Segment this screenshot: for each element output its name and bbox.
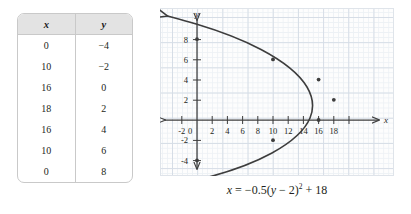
y-tick-label: 4 <box>184 75 189 85</box>
cell-y: −2 <box>75 56 132 77</box>
cell-y: 8 <box>75 161 132 182</box>
equation-coefficient: −0.5( <box>245 183 271 197</box>
cell-x: 16 <box>18 77 75 98</box>
parabola-curve <box>167 16 313 176</box>
cell-y: −4 <box>75 35 132 57</box>
cell-x: 0 <box>18 161 75 182</box>
equation-inner: − 2) <box>276 183 299 197</box>
table-row: 10 6 <box>18 140 132 161</box>
data-point <box>195 37 199 41</box>
table: x y 0 −4 10 −2 16 0 18 2 16 4 <box>18 14 132 182</box>
equation-caption: x = −0.5(y − 2)2 + 18 <box>160 182 394 198</box>
x-tick-label: 0 <box>188 126 192 136</box>
table-row: 0 −4 <box>18 35 132 57</box>
cell-y: 6 <box>75 140 132 161</box>
y-axis-label: y <box>194 9 199 19</box>
cell-x: 10 <box>18 140 75 161</box>
data-point <box>317 78 321 82</box>
xy-value-table: x y 0 −4 10 −2 16 0 18 2 16 4 <box>17 13 133 183</box>
equation-equals: = <box>232 183 245 197</box>
table-row: 16 4 <box>18 119 132 140</box>
table-row: 10 −2 <box>18 56 132 77</box>
cell-x: 10 <box>18 56 75 77</box>
cell-y: 2 <box>75 98 132 119</box>
cell-x: 16 <box>18 119 75 140</box>
y-tick-label: 6 <box>184 55 188 65</box>
x-tick-labels: -2 0 2 4 6 8 10 12 14 16 18 <box>178 126 338 136</box>
table-header: x y <box>18 14 132 35</box>
x-tick-label: 6 <box>240 126 244 136</box>
parabola-graph: -2 0 2 4 6 8 10 12 14 16 18 8 6 4 2 -2 -… <box>160 8 394 176</box>
y-tick-label: -4 <box>181 156 189 166</box>
graph-svg: -2 0 2 4 6 8 10 12 14 16 18 8 6 4 2 -2 -… <box>160 8 394 176</box>
table-header-row: x y <box>18 14 132 35</box>
data-point <box>317 118 321 122</box>
y-tick-label: -2 <box>181 135 188 145</box>
table-body: 0 −4 10 −2 16 0 18 2 16 4 10 6 <box>18 35 132 183</box>
y-tick-labels: 8 6 4 2 -2 -4 <box>181 35 189 166</box>
equation-tail: + 18 <box>302 183 327 197</box>
cell-x: 0 <box>18 35 75 57</box>
data-point <box>332 98 336 102</box>
table-row: 0 8 <box>18 161 132 182</box>
data-point <box>271 58 275 62</box>
table-row: 18 2 <box>18 98 132 119</box>
y-tick-label: 2 <box>184 95 188 105</box>
x-tick-label: 2 <box>210 126 214 136</box>
x-tick-label: 16 <box>314 126 323 136</box>
cell-x: 18 <box>18 98 75 119</box>
x-axis-label: x <box>383 115 388 125</box>
data-point <box>195 159 199 163</box>
y-tick-label: 8 <box>184 35 188 45</box>
x-tick-label: 18 <box>330 126 339 136</box>
table-row: 16 0 <box>18 77 132 98</box>
x-tick-label: 12 <box>284 126 293 136</box>
column-header-x: x <box>18 14 75 35</box>
x-tick-label: 10 <box>269 126 278 136</box>
data-point <box>271 138 275 142</box>
x-tick-label: 8 <box>256 126 260 136</box>
x-tick-label: 4 <box>225 126 230 136</box>
cell-y: 4 <box>75 119 132 140</box>
axes <box>165 20 379 169</box>
plotted-points <box>195 37 336 162</box>
column-header-y: y <box>75 14 132 35</box>
cell-y: 0 <box>75 77 132 98</box>
